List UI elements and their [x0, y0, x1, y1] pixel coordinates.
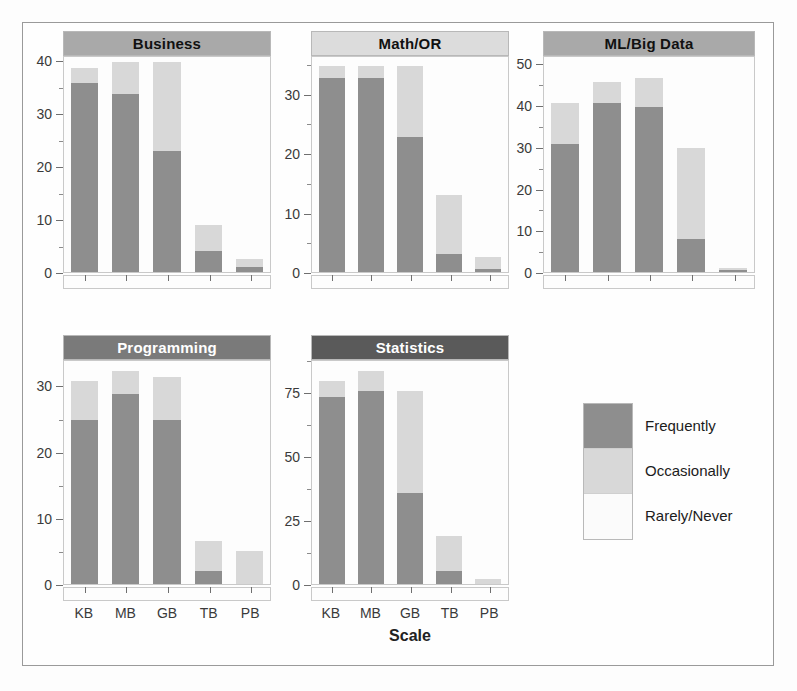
- bar-slot-tb: [430, 361, 469, 584]
- y-tick-major: [304, 273, 311, 274]
- legend-swatch-stack: [583, 403, 633, 540]
- panel-strip-0: Business: [63, 31, 271, 56]
- y-tick-label: 20: [12, 445, 52, 461]
- bar-slot-gb: [146, 57, 187, 272]
- y-tick-label: 20: [12, 159, 52, 175]
- x-tick: [251, 587, 252, 593]
- y-tick-minor: [307, 425, 311, 426]
- panel-title: Programming: [117, 339, 217, 356]
- bar-segment-frequently: [551, 144, 579, 272]
- bar-segment-frequently: [358, 78, 384, 272]
- bar-slot-mb: [351, 361, 390, 584]
- panel-title: Statistics: [376, 339, 445, 356]
- bar-slot-gb: [390, 361, 429, 584]
- bar-segment-occasionally: [436, 536, 462, 571]
- facet-panel-statistics: Statistics0255075KBMBGBTBPB: [311, 335, 509, 625]
- x-tick: [490, 587, 491, 593]
- bar-segment-occasionally: [319, 66, 345, 78]
- x-axis-strip: [63, 275, 271, 289]
- panel-strip-1: Math/OR: [311, 31, 509, 56]
- stacked-bar: [358, 371, 384, 584]
- bar-slot-tb: [188, 57, 229, 272]
- y-tick-label: 30: [12, 378, 52, 394]
- stacked-bar: [719, 268, 747, 272]
- bar-segment-occasionally: [319, 381, 345, 396]
- y-tick-label: 10: [12, 511, 52, 527]
- y-tick-minor: [307, 361, 311, 362]
- legend-swatch-occasionally: [584, 449, 632, 494]
- y-tick-major: [304, 154, 311, 155]
- x-tick: [735, 275, 736, 281]
- x-tick-label-kb: KB: [74, 605, 93, 621]
- chart-figure: Business010203040Math/OR0102030ML/Big Da…: [0, 0, 797, 691]
- facet-panel-math-or: Math/OR0102030: [311, 31, 509, 313]
- y-tick-minor: [307, 243, 311, 244]
- legend-label-rarely-never: Rarely/Never: [645, 507, 733, 524]
- panel-strip-4: Statistics: [311, 335, 509, 360]
- x-tick: [451, 587, 452, 593]
- stacked-bar: [71, 68, 98, 273]
- bar-group: [64, 361, 270, 584]
- bar-segment-occasionally: [436, 195, 462, 254]
- bar-segment-frequently: [593, 103, 621, 273]
- facet-panel-ml-big-data: ML/Big Data01020304050: [543, 31, 755, 313]
- x-axis-strip: [311, 587, 509, 601]
- y-tick-minor: [59, 552, 63, 553]
- y-tick-label: 20: [260, 146, 300, 162]
- x-tick: [251, 275, 252, 281]
- bar-segment-frequently: [153, 151, 180, 272]
- bar-segment-frequently: [436, 254, 462, 272]
- y-tick-minor: [59, 88, 63, 89]
- bar-slot-kb: [64, 57, 105, 272]
- bar-slot-tb: [670, 57, 712, 272]
- bar-segment-frequently: [71, 420, 98, 584]
- x-tick: [451, 275, 452, 281]
- bar-segment-occasionally: [551, 103, 579, 144]
- bar-segment-occasionally: [153, 377, 180, 420]
- stacked-bar: [475, 579, 501, 584]
- bar-slot-gb: [146, 361, 187, 584]
- stacked-bar: [112, 371, 139, 584]
- bar-segment-frequently: [112, 394, 139, 584]
- y-tick-major: [56, 61, 63, 62]
- x-tick: [168, 587, 169, 593]
- panel-title: ML/Big Data: [605, 35, 694, 52]
- x-tick: [332, 587, 333, 593]
- bar-segment-frequently: [195, 571, 222, 584]
- y-tick-major: [56, 386, 63, 387]
- y-tick-label: 10: [260, 206, 300, 222]
- panel-strip-3: Programming: [63, 335, 271, 360]
- y-tick-label: 30: [492, 140, 532, 156]
- y-tick-major: [536, 148, 543, 149]
- bar-segment-occasionally: [475, 579, 501, 584]
- x-tick-label-mb: MB: [360, 605, 381, 621]
- y-tick-minor: [539, 169, 543, 170]
- x-tick: [332, 275, 333, 281]
- stacked-bar: [436, 536, 462, 584]
- bar-slot-pb: [712, 57, 754, 272]
- bar-slot-pb: [469, 57, 508, 272]
- bar-segment-occasionally: [236, 259, 263, 267]
- y-tick-major: [536, 273, 543, 274]
- y-tick-major: [56, 167, 63, 168]
- y-tick-label: 50: [260, 449, 300, 465]
- stacked-bar: [236, 551, 263, 584]
- stacked-bar: [319, 381, 345, 584]
- bar-slot-kb: [544, 57, 586, 272]
- legend-swatch-frequently: [584, 404, 632, 449]
- bar-segment-frequently: [319, 78, 345, 272]
- y-tick-minor: [307, 124, 311, 125]
- bar-segment-frequently: [195, 251, 222, 272]
- stacked-bar: [195, 225, 222, 272]
- y-tick-minor: [59, 420, 63, 421]
- y-tick-label: 40: [492, 98, 532, 114]
- x-tick-label-pb: PB: [480, 605, 499, 621]
- x-axis-strip: [63, 587, 271, 601]
- x-tick-label-gb: GB: [157, 605, 177, 621]
- y-tick-label: 50: [492, 56, 532, 72]
- bar-segment-occasionally: [593, 82, 621, 103]
- x-tick: [210, 587, 211, 593]
- y-tick-major: [304, 214, 311, 215]
- x-tick: [411, 275, 412, 281]
- x-tick: [371, 587, 372, 593]
